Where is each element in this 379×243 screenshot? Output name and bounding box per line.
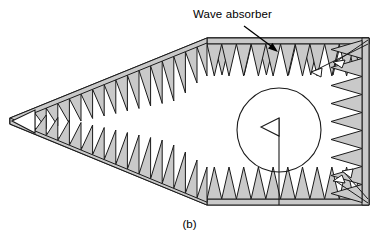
antenna-icon [261,118,279,136]
upper-tooth-8 [104,80,116,114]
wave-absorber-label: Wave absorber [193,8,272,20]
lower-tooth-13 [162,145,174,188]
top-tooth-6 [281,44,296,76]
bottom-tooth-3 [236,167,251,199]
bottom-band [207,199,369,205]
upper-tooth-13 [162,56,174,101]
bottom-tooth-4 [251,167,266,199]
bottom-tooth-2 [222,167,237,199]
upper-tooth-12 [151,61,163,103]
lower-tooth-8 [104,130,116,164]
lower-tooth-9 [116,133,128,170]
diagram-canvas [0,0,379,243]
upper-taper-absorber [10,38,207,130]
back-tooth-5 [331,113,362,131]
figure-caption: (b) [0,218,379,230]
top-band [207,38,369,44]
lower-tooth-4 [58,120,70,145]
lower-tooth-7 [93,128,105,160]
anechoic-chamber-diagram: Wave absorber (b) [0,0,379,243]
upper-tooth-9 [116,75,128,111]
lower-tooth-12 [151,140,163,184]
lower-taper-absorber [10,114,207,206]
lower-tooth-15 [185,160,197,198]
lower-tooth-14 [174,152,186,193]
upper-tooth-16 [197,43,207,76]
bottom-tooth-1 [207,167,222,199]
antenna-under-test [237,88,321,205]
lower-tooth-6 [81,125,93,155]
bottom-tooth-7 [295,167,310,199]
top-tooth-3 [236,44,251,76]
upper-tooth-6 [81,89,93,118]
upper-tooth-5 [69,94,81,121]
upper-tooth-7 [93,85,105,116]
upper-tooth-10 [127,71,139,109]
upper-tooth-4 [58,99,70,124]
back-tooth-3 [331,77,362,95]
lower-tooth-16 [197,167,207,202]
back-tooth-7 [331,149,362,167]
lower-tooth-5 [69,123,81,151]
back-tooth-4 [331,95,362,113]
back-band [362,38,369,205]
upper-tooth-14 [174,52,186,93]
upper-tooth-15 [185,47,197,83]
back-tooth-6 [331,131,362,149]
bottom-tooth-8 [310,167,325,199]
lower-tooth-10 [127,135,139,174]
lower-tooth-11 [139,138,151,179]
upper-tooth-11 [139,66,151,106]
